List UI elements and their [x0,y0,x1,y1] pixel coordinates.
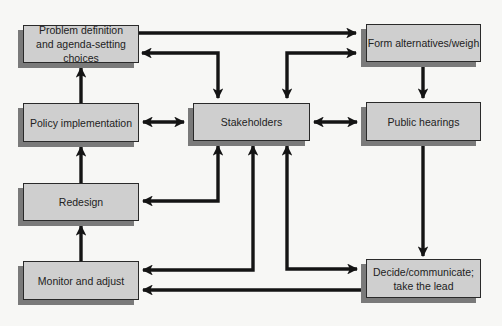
node-label: Decide/communicate; take the lead [359,265,488,293]
node-stakeholders: Stakeholders [193,103,310,141]
node-problem-definition: Problem definition and agenda-setting ch… [23,25,139,63]
node-policy-implementation: Policy implementation [23,103,139,142]
node-form-alternatives: Form alternatives/weigh [366,24,481,62]
node-label: Monitor and adjust [38,274,124,288]
node-label: Problem definition and agenda-setting ch… [24,23,138,65]
node-redesign: Redesign [23,183,139,221]
node-label: Redesign [59,195,103,209]
arrow-stakeholders-monitor [143,146,253,270]
node-label: Public hearings [388,115,460,129]
arrow-stakeholders-form [287,53,356,98]
arrow-stakeholders-decide [287,146,357,269]
node-public-hearings: Public hearings [366,102,481,141]
policy-process-diagram: Problem definition and agenda-setting ch… [0,0,502,326]
node-label: Form alternatives/weigh [368,36,479,50]
node-label: Stakeholders [221,115,282,129]
arrow-stakeholders-problem [142,53,218,98]
node-label: Policy implementation [30,116,132,130]
node-monitor-adjust: Monitor and adjust [23,261,139,300]
node-decide-communicate: Decide/communicate; take the lead [366,259,481,298]
arrow-stakeholders-redesign [143,146,218,201]
